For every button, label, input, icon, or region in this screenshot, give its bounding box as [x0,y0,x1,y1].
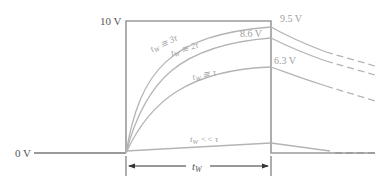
curve-small [126,143,271,151]
value-6-3v: 6.3 V [274,55,297,66]
discharge-3tau-dash [326,52,375,66]
rc-pulse-response-diagram: 10 V 0 V 9.5 V 8.6 V 6.3 V tW ≅ 3τ tW ≅ … [0,0,386,190]
discharge-3tau [271,27,326,52]
arrowhead-right-icon [262,164,269,169]
discharge-2tau-dash [326,61,375,75]
value-9-5v: 9.5 V [280,13,303,24]
discharge-1tau-dash [326,86,375,101]
value-8-6v: 8.6 V [240,28,263,39]
discharge-1tau [271,67,326,86]
discharge-small [271,143,330,151]
svg-text:tW ≅ τ: tW ≅ τ [191,67,218,84]
svg-text:tW << τ: tW << τ [190,134,219,146]
curve-label-1tau: tW ≅ τ [191,67,218,84]
label-10v: 10 V [100,15,122,27]
curve-label-small: tW << τ [190,134,219,146]
tw-label: tW [192,160,203,174]
label-0v: 0 V [15,147,31,159]
arrowhead-left-icon [128,164,135,169]
